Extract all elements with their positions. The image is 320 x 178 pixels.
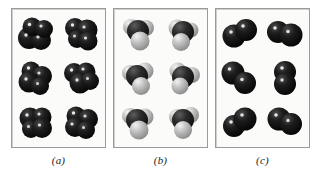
caption-b: (b) <box>113 150 208 174</box>
molecule <box>218 100 263 144</box>
panel-b-grid <box>114 9 207 147</box>
panel-a <box>11 8 106 148</box>
panel-row <box>11 8 310 148</box>
molecule <box>263 100 308 144</box>
molecular-model-figure: (a) (b) (c) <box>0 0 320 178</box>
molecule <box>59 100 104 144</box>
caption-row: (a) (b) (c) <box>11 150 310 174</box>
panel-c <box>215 8 310 148</box>
molecule <box>116 100 161 144</box>
molecule <box>116 56 161 100</box>
molecule <box>161 100 206 144</box>
molecule <box>59 56 104 100</box>
molecule <box>263 12 308 56</box>
molecule <box>59 12 104 56</box>
molecule <box>116 12 161 56</box>
molecule <box>263 56 308 100</box>
caption-a: (a) <box>11 150 106 174</box>
panel-c-grid <box>216 9 309 147</box>
molecule <box>161 56 206 100</box>
molecule <box>218 12 263 56</box>
panel-b <box>113 8 208 148</box>
molecule <box>14 12 59 56</box>
caption-c: (c) <box>215 150 310 174</box>
panel-a-grid <box>12 9 105 147</box>
molecule <box>14 100 59 144</box>
molecule <box>14 56 59 100</box>
molecule <box>161 12 206 56</box>
molecule <box>218 56 263 100</box>
